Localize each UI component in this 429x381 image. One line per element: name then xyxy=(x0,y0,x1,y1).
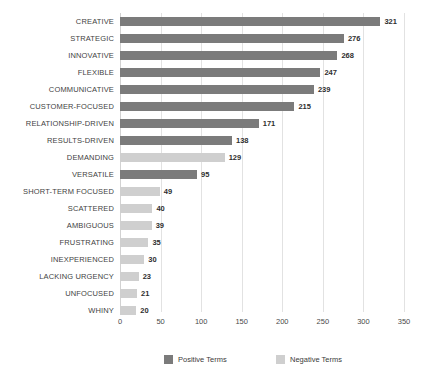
bar-value-label: 239 xyxy=(318,84,331,95)
bar-container: 23 xyxy=(120,268,404,285)
category-label: WHINY xyxy=(0,302,114,319)
x-axis: 050100150200250300350 xyxy=(120,312,404,332)
bar-positive[interactable] xyxy=(120,17,380,26)
category-label: RELATIONSHIP-DRIVEN xyxy=(0,115,114,132)
x-tick-label: 250 xyxy=(317,317,330,326)
legend-swatch-positive-icon xyxy=(164,355,173,364)
bar-rows: CREATIVE321STRATEGIC276INNOVATIVE268FLEX… xyxy=(0,13,429,319)
category-label: FLEXIBLE xyxy=(0,64,114,81)
category-label: SCATTERED xyxy=(0,200,114,217)
bar-container: 215 xyxy=(120,98,404,115)
category-label: SHORT-TERM FOCUSED xyxy=(0,183,114,200)
bar-container: 171 xyxy=(120,115,404,132)
bar-container: 247 xyxy=(120,64,404,81)
category-label: UNFOCUSED xyxy=(0,285,114,302)
bar-row: FRUSTRATING35 xyxy=(0,234,429,251)
bar-value-label: 23 xyxy=(143,271,151,282)
category-label: INNOVATIVE xyxy=(0,47,114,64)
category-label: CUSTOMER-FOCUSED xyxy=(0,98,114,115)
bar-row: RELATIONSHIP-DRIVEN171 xyxy=(0,115,429,132)
bar-negative[interactable] xyxy=(120,204,152,213)
bar-negative[interactable] xyxy=(120,221,152,230)
bar-value-label: 30 xyxy=(148,254,156,265)
category-label: LACKING URGENCY xyxy=(0,268,114,285)
bar-row: FLEXIBLE247 xyxy=(0,64,429,81)
bar-value-label: 40 xyxy=(156,203,164,214)
bar-chart: CREATIVE321STRATEGIC276INNOVATIVE268FLEX… xyxy=(0,0,429,381)
bar-positive[interactable] xyxy=(120,51,337,60)
bar-row: SCATTERED40 xyxy=(0,200,429,217)
bar-row: INEXPERIENCED30 xyxy=(0,251,429,268)
bar-container: 95 xyxy=(120,166,404,183)
bar-negative[interactable] xyxy=(120,153,225,162)
bar-row: RESULTS-DRIVEN138 xyxy=(0,132,429,149)
bar-value-label: 129 xyxy=(229,152,242,163)
bar-container: 129 xyxy=(120,149,404,166)
bar-row: UNFOCUSED21 xyxy=(0,285,429,302)
x-tick-label: 150 xyxy=(235,317,248,326)
bar-container: 30 xyxy=(120,251,404,268)
x-tick-label: 350 xyxy=(398,317,411,326)
bar-value-label: 276 xyxy=(348,33,361,44)
bar-positive[interactable] xyxy=(120,85,314,94)
bar-container: 268 xyxy=(120,47,404,64)
legend-swatch-negative-icon xyxy=(276,355,285,364)
bar-negative[interactable] xyxy=(120,272,139,281)
bar-positive[interactable] xyxy=(120,119,259,128)
bar-positive[interactable] xyxy=(120,136,232,145)
bar-negative[interactable] xyxy=(120,238,148,247)
bar-row: VERSATILE95 xyxy=(0,166,429,183)
bar-container: 138 xyxy=(120,132,404,149)
bar-container: 321 xyxy=(120,13,404,30)
bar-positive[interactable] xyxy=(120,170,197,179)
bar-row: LACKING URGENCY23 xyxy=(0,268,429,285)
x-tick-label: 200 xyxy=(276,317,289,326)
category-label: AMBIGUOUS xyxy=(0,217,114,234)
bar-row: STRATEGIC276 xyxy=(0,30,429,47)
bar-value-label: 95 xyxy=(201,169,209,180)
bar-positive[interactable] xyxy=(120,102,294,111)
bar-container: 39 xyxy=(120,217,404,234)
bar-row: CREATIVE321 xyxy=(0,13,429,30)
bar-value-label: 171 xyxy=(263,118,276,129)
legend-item-positive[interactable]: Positive Terms xyxy=(164,352,227,366)
category-label: RESULTS-DRIVEN xyxy=(0,132,114,149)
legend-label-negative: Negative Terms xyxy=(290,355,342,364)
bar-container: 21 xyxy=(120,285,404,302)
category-label: VERSATILE xyxy=(0,166,114,183)
bar-positive[interactable] xyxy=(120,34,344,43)
bar-negative[interactable] xyxy=(120,289,137,298)
bar-negative[interactable] xyxy=(120,187,160,196)
bar-value-label: 35 xyxy=(152,237,160,248)
bar-container: 239 xyxy=(120,81,404,98)
bar-value-label: 268 xyxy=(341,50,354,61)
category-label: COMMUNICATIVE xyxy=(0,81,114,98)
bar-value-label: 321 xyxy=(384,16,397,27)
x-tick-label: 50 xyxy=(156,317,164,326)
chart-legend: Positive Terms Negative Terms xyxy=(0,352,429,368)
category-label: CREATIVE xyxy=(0,13,114,30)
bar-positive[interactable] xyxy=(120,68,320,77)
bar-row: SHORT-TERM FOCUSED49 xyxy=(0,183,429,200)
bar-container: 276 xyxy=(120,30,404,47)
bar-value-label: 138 xyxy=(236,135,249,146)
x-tick-label: 300 xyxy=(357,317,370,326)
bar-row: CUSTOMER-FOCUSED215 xyxy=(0,98,429,115)
bar-value-label: 215 xyxy=(298,101,311,112)
legend-label-positive: Positive Terms xyxy=(178,355,227,364)
category-label: STRATEGIC xyxy=(0,30,114,47)
bar-value-label: 21 xyxy=(141,288,149,299)
bar-row: COMMUNICATIVE239 xyxy=(0,81,429,98)
x-tick-label: 100 xyxy=(195,317,208,326)
bar-value-label: 247 xyxy=(324,67,337,78)
bar-row: INNOVATIVE268 xyxy=(0,47,429,64)
bar-row: AMBIGUOUS39 xyxy=(0,217,429,234)
bar-container: 35 xyxy=(120,234,404,251)
legend-item-negative[interactable]: Negative Terms xyxy=(276,352,342,366)
bar-container: 49 xyxy=(120,183,404,200)
bar-negative[interactable] xyxy=(120,255,144,264)
bar-container: 40 xyxy=(120,200,404,217)
category-label: DEMANDING xyxy=(0,149,114,166)
x-tick-label: 0 xyxy=(118,317,122,326)
bar-row: DEMANDING129 xyxy=(0,149,429,166)
